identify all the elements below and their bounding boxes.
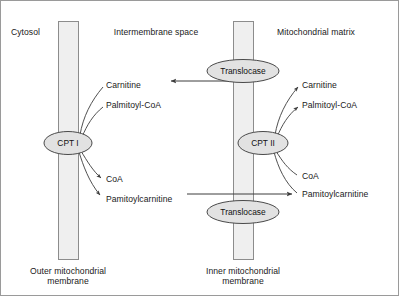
metabolite-label-palmitoylcarnitine-cytosolic: Pamitoylcarnitine bbox=[106, 194, 172, 204]
translocase-upper-ellipse bbox=[207, 60, 279, 83]
cpt-ii-carnitine-arrow bbox=[275, 87, 298, 135]
metabolite-label-palmitoylcarnitine-matrix: Pamitoylcarnitine bbox=[302, 189, 368, 199]
carnitine-shuttle-graphics bbox=[1, 1, 399, 296]
cpt-ii-ellipse bbox=[238, 132, 288, 155]
diagram-canvas: Cytosol Intermembrane space Mitochondria… bbox=[0, 0, 399, 296]
metabolite-label-palmitoyl-coa-matrix: Palmitoyl-CoA bbox=[302, 100, 357, 110]
metabolite-label-palmitoyl-coa-cytosolic: Palmitoyl-CoA bbox=[106, 100, 161, 110]
cpt-ii-coa-connector bbox=[276, 151, 297, 175]
region-label-mitochondrial-matrix: Mitochondrial matrix bbox=[277, 27, 355, 37]
region-label-cytosol: Cytosol bbox=[11, 27, 40, 37]
translocase-lower-ellipse bbox=[207, 201, 279, 224]
metabolite-label-coa-cytosolic: CoA bbox=[106, 174, 123, 184]
cpt-i-palmitoylcoa-connector bbox=[82, 107, 103, 137]
metabolite-label-carnitine-cytosolic: Carnitine bbox=[106, 80, 141, 90]
outer-membrane-caption-line1: Outer mitochondrial bbox=[30, 266, 106, 276]
outer-membrane-caption: Outer mitochondrial membrane bbox=[30, 266, 106, 287]
metabolite-label-carnitine-matrix: Carnitine bbox=[302, 80, 337, 90]
region-label-intermembrane-space: Intermembrane space bbox=[114, 27, 199, 37]
inner-membrane-caption-line1: Inner mitochondrial bbox=[206, 266, 280, 276]
inner-membrane-caption: Inner mitochondrial membrane bbox=[206, 266, 280, 287]
outer-membrane-caption-line2: membrane bbox=[47, 276, 88, 286]
cpt-i-ellipse bbox=[44, 132, 92, 155]
cpt-i-coa-arrow bbox=[81, 151, 101, 178]
cpt-i-carnitine-connector bbox=[80, 87, 103, 135]
inner-membrane-caption-line2: membrane bbox=[222, 276, 263, 286]
metabolite-label-coa-matrix: CoA bbox=[302, 171, 319, 181]
cpt-ii-palmitoylcoa-arrow bbox=[277, 107, 298, 137]
